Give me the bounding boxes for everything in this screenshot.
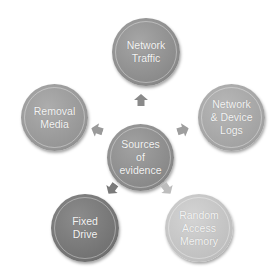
node-random-access-memory: Random Access Memory	[165, 194, 233, 262]
node-sources-of-evidence: Sources of evidence	[107, 124, 174, 191]
node-label: Sources of evidence	[119, 138, 161, 177]
node-label: Network Traffic	[127, 39, 166, 65]
node-label: Random Access Memory	[179, 209, 219, 248]
node-network-traffic: Network Traffic	[112, 18, 180, 86]
node-fixed-drive: Fixed Drive	[51, 194, 119, 262]
arrow-left-icon	[89, 121, 105, 138]
node-label: Fixed Drive	[72, 215, 98, 241]
node-removal-media: Removal Media	[21, 84, 88, 151]
node-network-device-logs: Network & Device Logs	[198, 84, 265, 151]
node-label: Removal Media	[34, 105, 75, 131]
arrow-up-icon	[134, 94, 148, 106]
arrow-right-icon	[175, 121, 191, 138]
node-label: Network & Device Logs	[210, 98, 252, 137]
